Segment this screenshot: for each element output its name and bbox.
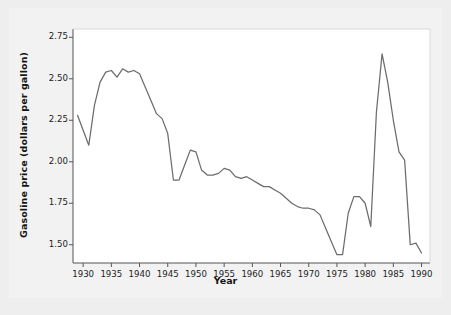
figure-container: Gasoline price (dollars per gallon) Year… (0, 0, 451, 315)
y-axis-tick-label: 2.75 (30, 31, 68, 41)
y-axis-tick-label: 1.75 (30, 197, 68, 207)
x-axis-tick-label: 1990 (402, 269, 442, 279)
y-axis-tick-label: 2.00 (30, 156, 68, 166)
y-axis-tick-label: 2.50 (30, 73, 68, 83)
plot-background (73, 29, 430, 263)
y-axis-tick-label: 2.25 (30, 114, 68, 124)
y-axis-tick-label: 1.50 (30, 239, 68, 249)
